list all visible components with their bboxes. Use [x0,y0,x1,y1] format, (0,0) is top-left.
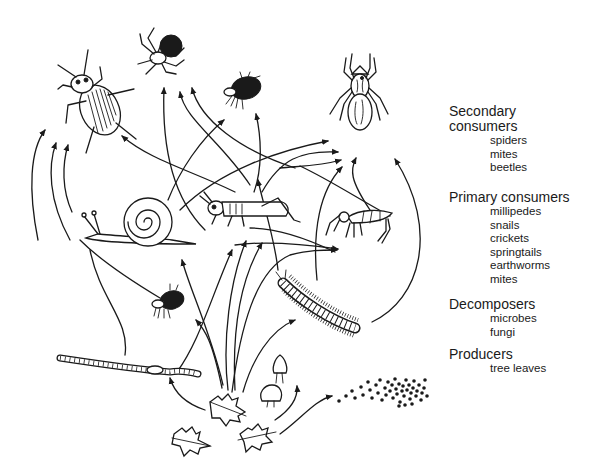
legend-item: snails [449,219,570,233]
mushroom-drawing [261,355,287,407]
microbes-drawing [337,377,429,408]
legend-item: tree leaves [449,362,546,376]
legend-item: millipedes [449,205,570,219]
small-spider-drawing [138,28,184,74]
legend-item: fungi [449,326,537,340]
springtail-drawing [326,210,392,243]
legend-item: mites [449,148,527,162]
cricket-drawing [200,192,300,226]
legend-item: beetles [449,161,527,175]
legend-primary-consumers: Primary consumers millipedes snails cric… [449,190,570,287]
leaves-drawing [172,394,276,456]
legend-item: springtails [449,246,570,260]
legend-decomposers: Decomposers microbes fungi [449,297,537,339]
legend-heading-producers: Producers [449,347,546,362]
legend-item: mites [449,273,570,287]
legend-secondary-consumers: Secondary consumers spiders mites beetle… [449,104,527,175]
legend-item: crickets [449,232,570,246]
legend-heading-primary: Primary consumers [449,190,570,205]
legend-heading-decomposers: Decomposers [449,297,537,312]
snail-drawing [82,198,196,246]
legend-heading-secondary-line2: consumers [449,119,527,134]
top-mite-drawing [224,72,263,109]
legend-item: earthworms [449,259,570,273]
legend-heading-secondary-line1: Secondary [449,104,527,119]
legend-item: microbes [449,312,537,326]
middle-mite-drawing [152,284,186,318]
legend-item: spiders [449,134,527,148]
earthworm-drawing [60,358,198,374]
legend-producers: Producers tree leaves [449,347,546,376]
large-spider-drawing [330,54,388,130]
